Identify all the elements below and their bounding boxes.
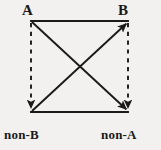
logic-square-diagram: A B non-B non-A (0, 0, 161, 150)
vertex-label-non-a: non-A (101, 128, 137, 141)
vertex-label-b: B (118, 3, 128, 18)
edge-diagonal-a-to-non-a (32, 22, 126, 109)
vertex-label-a: A (22, 3, 33, 18)
edge-diagonal-non-b-to-b (32, 24, 126, 111)
vertex-label-non-b: non-B (4, 128, 39, 141)
